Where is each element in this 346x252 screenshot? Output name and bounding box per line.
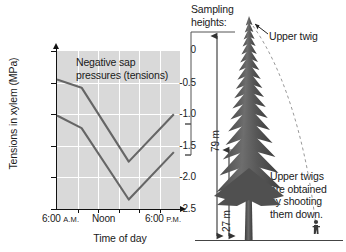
tree-panel: Sampling heights: Upper twig Upper twigs… [185, 0, 346, 252]
person-figure [313, 220, 320, 234]
tree-foliage [216, 16, 282, 192]
chart-panel: 0 -0.5 -1.0 -1.5 -2.0 -2.5 6:00 A.M. Noo… [0, 0, 196, 252]
figure-root: 0 -0.5 -1.0 -1.5 -2.0 -2.5 6:00 A.M. Noo… [0, 0, 346, 252]
tree-illustration [185, 0, 346, 252]
series-overlay [0, 0, 196, 252]
series-line-79m [57, 115, 174, 199]
ground-line [195, 240, 343, 241]
series-line-27m [57, 79, 174, 161]
sampling-bracket [185, 32, 235, 155]
leader-lines [185, 124, 191, 155]
